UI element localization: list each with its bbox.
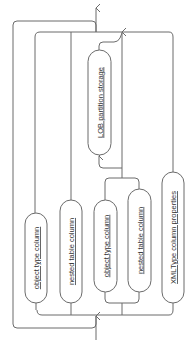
node-label: LOB partition storage — [96, 67, 105, 138]
node-label: object type column — [32, 227, 41, 290]
node-label: XMLType column properties — [169, 191, 178, 284]
node-object-type-column-2[interactable]: object type column — [94, 200, 117, 292]
node-nested-table-column-1[interactable]: nested table column — [60, 200, 82, 303]
node-label: nested table column — [136, 207, 145, 274]
node-xmltype-column-properties[interactable]: XMLType column properties — [162, 172, 184, 303]
node-nested-table-column-2[interactable]: nested table column — [128, 189, 151, 292]
node-lob-partition-storage[interactable]: LOB partition storage — [88, 50, 111, 155]
node-label: object type column — [102, 215, 111, 278]
node-object-type-column-1[interactable]: object type column — [25, 213, 47, 303]
node-label: nested table column — [67, 218, 76, 285]
railroad-diagram: LOB partition storage object type column… — [0, 0, 196, 353]
